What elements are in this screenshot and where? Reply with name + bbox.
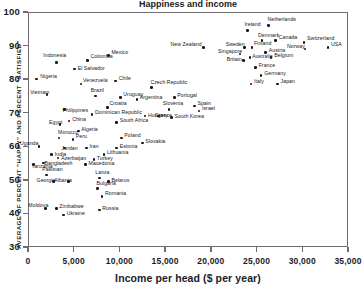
- x-tick-mark: [73, 247, 75, 252]
- data-point-label: Romania: [105, 190, 126, 196]
- data-point-label: Poland: [124, 132, 140, 138]
- data-point-label: Croatia: [110, 100, 127, 106]
- data-point-label: Australia: [252, 53, 273, 59]
- data-point[interactable]: [55, 207, 58, 210]
- data-point[interactable]: [38, 145, 41, 148]
- data-point[interactable]: [251, 46, 254, 49]
- data-point[interactable]: [98, 209, 101, 212]
- data-point-label: France: [259, 62, 275, 68]
- data-point[interactable]: [55, 61, 58, 64]
- data-point-label: Macedonia: [89, 160, 115, 166]
- data-point[interactable]: [267, 24, 270, 27]
- data-point[interactable]: [327, 46, 330, 49]
- data-point[interactable]: [94, 95, 97, 98]
- data-point[interactable]: [254, 66, 257, 69]
- x-tick-mark: [210, 247, 212, 252]
- data-point[interactable]: [120, 137, 123, 140]
- chart-title: Happiness and income: [28, 0, 348, 9]
- data-point-label: South Africa: [120, 117, 149, 123]
- x-tick-mark: [302, 247, 304, 252]
- data-point[interactable]: [173, 96, 176, 99]
- data-point-label: Belgium: [274, 52, 293, 58]
- data-point-label: Israel: [202, 105, 215, 111]
- data-point[interactable]: [136, 98, 139, 101]
- x-tick-mark: [347, 247, 349, 252]
- data-point[interactable]: [114, 80, 117, 83]
- data-point-label: Argentina: [140, 94, 163, 100]
- data-point[interactable]: [85, 147, 88, 150]
- data-point-label: Peru: [76, 133, 87, 139]
- data-point-label: China: [72, 116, 86, 122]
- x-tick-mark: [164, 247, 166, 252]
- data-point-label: Zimbabwe: [59, 203, 83, 209]
- data-point-label: USA: [331, 41, 342, 47]
- data-point[interactable]: [86, 59, 89, 62]
- y-axis-title: AVERAGE OF PERCENT "HAPPY" AND PERCENT "…: [13, 0, 25, 289]
- data-point[interactable]: [150, 86, 153, 89]
- data-point-label: Japan: [281, 78, 295, 84]
- data-point-label: Chile: [119, 75, 131, 81]
- data-point-label: Finland: [254, 40, 271, 46]
- scatter-chart: Happiness and income 30405060708090100 0…: [0, 0, 362, 289]
- data-point[interactable]: [91, 113, 94, 116]
- data-point-label: Iran: [90, 143, 99, 149]
- data-point-label: Mexico: [111, 49, 128, 55]
- data-point-label: Ukraine: [67, 210, 85, 216]
- data-point-label: Canada: [279, 34, 297, 40]
- x-tick-label: 35,000: [318, 256, 362, 266]
- data-point-label: El Salvador: [78, 65, 105, 71]
- data-point[interactable]: [96, 187, 99, 190]
- data-point-label: Nigeria: [40, 73, 57, 79]
- data-point-label: Dominican Republic: [95, 109, 142, 115]
- data-point[interactable]: [107, 54, 110, 57]
- data-point-label: Germany: [264, 70, 286, 76]
- x-tick-mark: [256, 247, 258, 252]
- data-point[interactable]: [274, 39, 277, 42]
- x-tick-mark: [119, 247, 121, 252]
- data-point[interactable]: [141, 142, 144, 145]
- data-point[interactable]: [84, 163, 87, 166]
- data-point-label: Venezuela: [83, 77, 108, 83]
- data-point[interactable]: [119, 96, 122, 99]
- data-point-label: Russia: [102, 205, 118, 211]
- x-tick-mark: [27, 247, 29, 252]
- data-point-label: Italy: [254, 78, 264, 84]
- data-point-label: Portugal: [177, 92, 197, 98]
- data-point-label: Slovakia: [145, 138, 165, 144]
- x-axis-title: Income per head ($ per year): [28, 272, 348, 284]
- data-point[interactable]: [246, 29, 249, 32]
- data-point[interactable]: [72, 138, 75, 141]
- data-point-label: Algeria: [81, 126, 98, 132]
- data-point-label: South Korea: [175, 113, 204, 119]
- data-point[interactable]: [202, 46, 205, 49]
- data-point[interactable]: [170, 116, 173, 119]
- data-point[interactable]: [168, 108, 171, 111]
